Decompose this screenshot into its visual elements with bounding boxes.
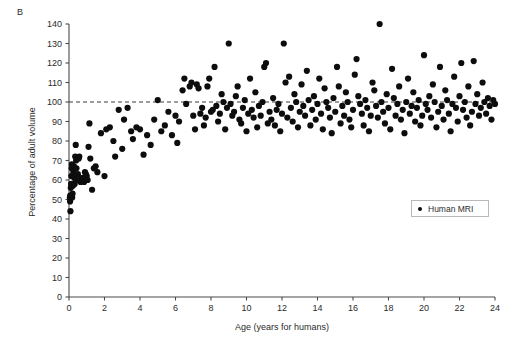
data-point <box>67 208 73 214</box>
data-point <box>472 101 478 107</box>
data-point <box>462 99 468 105</box>
data-point <box>460 107 466 113</box>
data-point <box>144 132 150 138</box>
data-point <box>424 107 430 113</box>
data-point <box>487 103 493 109</box>
data-point <box>155 97 161 103</box>
data-point <box>238 120 244 126</box>
data-point <box>375 115 381 121</box>
data-point <box>272 122 278 128</box>
data-point <box>336 83 342 89</box>
data-point <box>302 113 308 119</box>
data-point <box>281 40 287 46</box>
data-point <box>213 103 219 109</box>
x-tick-label: 4 <box>137 303 142 313</box>
data-point <box>398 116 404 122</box>
data-point <box>394 101 400 107</box>
y-tick-label: 30 <box>52 234 62 244</box>
data-point <box>124 105 130 111</box>
data-point <box>284 115 290 121</box>
data-point <box>235 83 241 89</box>
data-point <box>488 116 494 122</box>
data-point <box>297 109 303 115</box>
y-tick-label: 10 <box>52 273 62 283</box>
data-point <box>334 64 340 70</box>
data-point <box>446 111 452 117</box>
data-point <box>414 105 420 111</box>
data-point <box>442 87 448 93</box>
data-point <box>180 87 186 93</box>
data-point <box>306 97 312 103</box>
data-point <box>455 118 461 124</box>
data-point <box>337 120 343 126</box>
data-point <box>282 79 288 85</box>
data-point <box>359 111 365 117</box>
scatter-plot-canvas: 0102030405060708090100110120130140 02468… <box>0 0 513 344</box>
data-point <box>322 85 328 91</box>
data-point <box>332 109 338 115</box>
data-point <box>215 118 221 124</box>
data-point <box>73 142 79 148</box>
data-point <box>329 130 335 136</box>
data-point <box>393 113 399 119</box>
data-point <box>112 154 118 160</box>
data-point <box>169 132 175 138</box>
y-tick-label: 70 <box>52 156 62 166</box>
x-tick-label: 8 <box>208 303 213 313</box>
data-point <box>259 99 265 105</box>
x-tick-label: 10 <box>241 303 251 313</box>
data-point <box>396 83 402 89</box>
data-point <box>368 113 374 119</box>
data-point <box>304 68 310 74</box>
data-point <box>377 21 383 27</box>
data-point <box>384 91 390 97</box>
data-point <box>451 74 457 80</box>
data-point <box>87 155 93 161</box>
data-point <box>448 128 454 134</box>
data-point <box>275 101 281 107</box>
data-point <box>181 76 187 82</box>
data-point <box>485 95 491 101</box>
data-point <box>479 79 485 85</box>
data-point <box>419 113 425 119</box>
data-point <box>371 87 377 93</box>
data-point <box>195 85 201 91</box>
data-point <box>453 105 459 111</box>
data-point <box>458 60 464 66</box>
data-point <box>343 89 349 95</box>
x-tick-label: 12 <box>277 303 287 313</box>
data-point <box>233 93 239 99</box>
data-point <box>249 107 255 113</box>
data-point <box>465 83 471 89</box>
data-point <box>407 111 413 117</box>
data-point <box>165 109 171 115</box>
y-tick-label: 90 <box>52 117 62 127</box>
data-point <box>432 99 438 105</box>
data-point <box>148 142 154 148</box>
data-point <box>151 116 157 122</box>
x-tick-label: 2 <box>102 303 107 313</box>
y-tick-label: 100 <box>47 97 62 107</box>
data-point <box>128 128 134 134</box>
data-point <box>137 126 143 132</box>
data-point <box>217 111 223 117</box>
data-point <box>295 124 301 130</box>
data-point <box>476 113 482 119</box>
data-point <box>290 118 296 124</box>
data-point <box>369 79 375 85</box>
data-point <box>410 89 416 95</box>
data-point <box>309 107 315 113</box>
data-point <box>330 95 336 101</box>
data-point <box>206 76 212 82</box>
data-point <box>417 122 423 128</box>
data-point <box>401 130 407 136</box>
data-point <box>252 89 258 95</box>
data-point <box>183 101 189 107</box>
data-point <box>85 144 91 150</box>
data-point <box>190 113 196 119</box>
data-point <box>403 99 409 105</box>
data-point <box>444 97 450 103</box>
data-point <box>339 103 345 109</box>
data-point <box>192 126 198 132</box>
data-point <box>348 124 354 130</box>
